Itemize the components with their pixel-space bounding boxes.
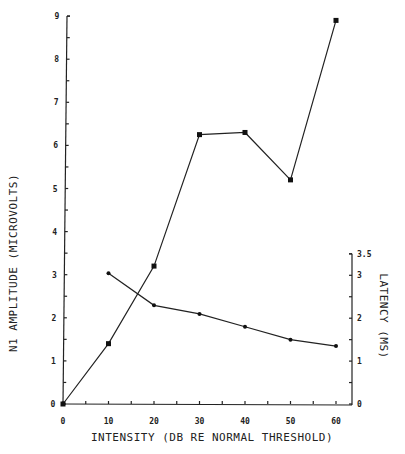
y2-tick-label: 3: [357, 271, 362, 280]
y-tick-label: 1: [51, 357, 56, 366]
square-marker: [288, 177, 293, 182]
square-marker: [61, 402, 66, 407]
y-tick-label: 2: [51, 314, 56, 323]
y2-tick-label: 1: [357, 357, 362, 366]
series-line: [63, 20, 336, 404]
series-line: [109, 273, 337, 346]
y-axis-title: N1 AMPLITUDE (MICROVOLTS): [7, 174, 20, 352]
square-marker: [197, 132, 202, 137]
dot-marker: [152, 303, 156, 307]
dot-marker: [334, 344, 338, 348]
square-marker: [106, 341, 111, 346]
x-tick-label: 30: [195, 417, 205, 426]
x-tick-label: 0: [61, 417, 66, 426]
y-tick-label: 3: [52, 271, 57, 280]
x-tick-label: 60: [331, 417, 341, 426]
x-axis-title: INTENSITY (DB RE NORMAL THRESHOLD): [91, 431, 333, 444]
data-series: [61, 18, 339, 407]
y2-tick-label: 2: [357, 314, 362, 323]
x-axis-line: [63, 404, 352, 405]
dot-marker: [243, 325, 247, 329]
series-n1-amplitude: [61, 18, 339, 407]
dot-marker: [198, 312, 202, 316]
x-tick-label: 50: [286, 417, 296, 426]
square-marker: [152, 264, 157, 269]
square-marker: [243, 130, 248, 135]
y-tick-label: 8: [54, 55, 59, 64]
y-tick-label: 6: [53, 141, 58, 150]
y-tick-label: 0: [51, 400, 56, 409]
x-tick-label: 20: [149, 417, 159, 426]
y-tick-label: 5: [53, 185, 58, 194]
y2-tick-label: 0: [357, 400, 362, 409]
series-latency: [107, 271, 339, 348]
square-marker: [334, 18, 339, 23]
tick-labels: 0123456789010203040506001233.5: [51, 12, 372, 426]
y-tick-label: 4: [52, 228, 57, 237]
x-tick-label: 40: [240, 417, 250, 426]
dot-marker: [289, 338, 293, 342]
dot-marker: [107, 271, 111, 275]
chart-canvas: 0123456789010203040506001233.5 INTENSITY…: [0, 0, 405, 454]
y2-axis-title: LATENCY (MS): [377, 273, 390, 358]
y-tick-label: 7: [54, 98, 59, 107]
y2-tick-label: 3.5: [357, 250, 372, 259]
y-tick-label: 9: [55, 12, 60, 21]
x-tick-label: 10: [104, 417, 114, 426]
